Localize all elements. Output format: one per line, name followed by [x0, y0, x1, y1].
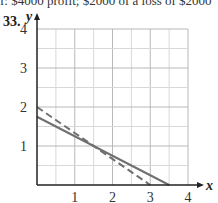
x-tick-label: 2	[109, 190, 116, 203]
y-arrow-icon	[34, 13, 40, 20]
y-tick-label: 3	[20, 61, 27, 76]
x-tick-label: 1	[71, 190, 78, 203]
line-chart: 12341234xy	[0, 0, 218, 203]
x-arrow-icon	[197, 182, 204, 188]
y-axis-label: y	[24, 9, 33, 24]
y-tick-label: 4	[20, 22, 27, 37]
x-axis-label: x	[205, 178, 213, 193]
axes	[34, 13, 204, 188]
y-tick-label: 2	[20, 100, 27, 115]
grid	[37, 29, 188, 185]
x-tick-label: 3	[147, 190, 154, 203]
tick-labels: 12341234xy	[20, 9, 213, 203]
x-tick-label: 4	[185, 190, 192, 203]
y-tick-label: 1	[20, 139, 27, 154]
